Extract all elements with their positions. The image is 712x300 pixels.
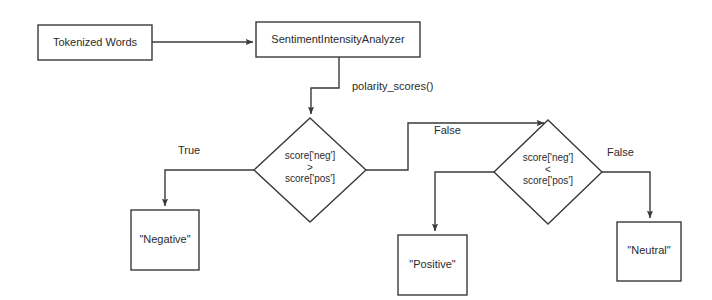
node-result-negative — [131, 210, 199, 270]
node-result-neutral — [617, 222, 681, 281]
edge-decision2-false — [602, 172, 650, 218]
node-result-positive — [398, 235, 467, 295]
node-tokenized-words — [38, 25, 152, 60]
node-sentiment-intensity-analyzer — [256, 22, 420, 57]
flowchart-canvas: Tokenized Words SentimentIntensityAnalyz… — [0, 0, 712, 300]
node-decision-neg-gt-pos — [254, 118, 366, 222]
flowchart-graphics — [0, 0, 712, 300]
edge-decision2-true — [435, 172, 494, 231]
edge-decision1-true — [165, 170, 254, 206]
edge-analyzer-to-decision1 — [311, 57, 339, 114]
node-decision-neg-lt-pos — [494, 120, 602, 224]
